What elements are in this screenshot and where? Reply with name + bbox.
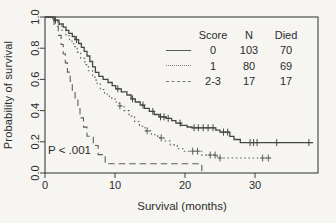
legend-n-value: 103 [231,44,267,56]
y-tick-label: 0.4 [29,103,41,118]
legend-line-dashed-icon [166,81,191,82]
censor-mark-score-0 [166,115,171,122]
p-value-annotation: P < .001 [48,144,91,156]
censor-mark-score-1 [117,102,122,109]
censor-mark-score-1 [190,148,195,155]
censor-mark-score-0 [306,139,311,146]
legend-died-value: 17 [267,75,305,87]
legend-score-value: 0 [195,44,231,56]
legend-col-died: Died [267,29,305,41]
censor-mark-score-1 [208,152,213,159]
legend-score-value: 2-3 [195,75,231,87]
x-tick-label: 10 [109,179,121,191]
y-tick-label: 0.2 [29,134,41,149]
censor-mark-score-1 [195,148,200,155]
y-tick-label: 0.8 [29,41,41,56]
legend-col-n: N [231,29,267,41]
kaplan-meier-figure: 01020300.00.20.40.60.81.0 Probability of… [0,0,336,223]
x-tick-label: 0 [42,179,48,191]
legend-line-dotted-icon [166,65,191,66]
censor-mark-score-1 [213,152,218,159]
legend-line-solid-icon [166,50,191,51]
legend-died-value: 70 [267,44,305,56]
censor-mark-score-0 [255,139,260,146]
censor-mark-score-1 [266,155,271,162]
x-tick-label: 30 [249,179,261,191]
y-axis-title: Probability of survival [2,41,14,150]
legend-row-score-1: 1 80 69 [166,58,305,74]
censor-mark-score-0 [211,124,216,131]
legend-n-value: 80 [231,60,267,72]
legend: Score N Died 0 103 70 1 80 69 2-3 17 17 [166,27,305,89]
legend-row-score-0: 0 103 70 [166,43,305,59]
censor-mark-score-0 [201,124,206,131]
legend-n-value: 17 [231,75,267,87]
legend-died-value: 69 [267,60,305,72]
legend-score-value: 1 [195,60,231,72]
y-tick-label: 0.6 [29,72,41,87]
x-axis-title: Survival (months) [137,200,226,212]
y-tick-label: 1.0 [29,9,41,24]
censor-mark-score-0 [274,139,279,146]
censor-mark-score-1 [218,155,223,162]
x-tick-label: 20 [179,179,191,191]
legend-header-row: Score N Died [166,27,305,43]
censor-mark-score-0 [196,124,201,131]
censor-mark-score-1 [260,155,265,162]
censor-mark-score-0 [162,113,167,120]
y-tick-label: 0.0 [29,165,41,180]
legend-row-score-2-3: 2-3 17 17 [166,74,305,90]
censor-mark-score-1 [159,134,164,141]
legend-col-score: Score [195,29,231,41]
censor-mark-score-0 [206,124,211,131]
